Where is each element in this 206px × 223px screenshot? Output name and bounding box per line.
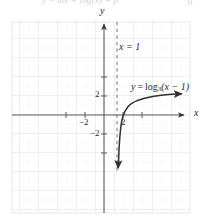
equation-equals: =: [137, 81, 143, 92]
grid-layer: [12, 22, 190, 213]
tick-label-x-negative-2: −2: [79, 118, 89, 127]
equation-argument: (x − 1): [161, 81, 189, 92]
plot-canvas: [0, 0, 206, 223]
tick-label-y-negative-2: −2: [90, 129, 100, 138]
graph-figure: y = mx + log(x) + p g: [0, 0, 206, 223]
curve-equation-label: y=log3(x − 1): [131, 82, 189, 93]
x-axis-label: x: [194, 108, 198, 118]
asymptote-equation-label: x = 1: [119, 42, 140, 52]
tick-label-x-positive-2: 2: [121, 118, 126, 127]
tick-label-y-positive-2: 2: [95, 90, 100, 99]
equation-lhs: y: [131, 81, 135, 92]
y-axis-label: y: [100, 6, 104, 16]
equation-log: log: [145, 81, 158, 92]
